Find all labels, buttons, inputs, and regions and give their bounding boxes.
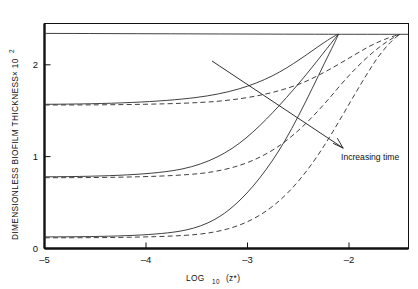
plot-frame xyxy=(45,24,409,249)
curve-4-solid xyxy=(45,34,339,237)
y-axis-title-exponent: 2 xyxy=(8,49,15,53)
curve-3-solid xyxy=(45,34,339,177)
curve-4-dashed xyxy=(45,34,401,238)
curve-1-solid xyxy=(45,33,409,34)
curve-2-dashed xyxy=(45,34,401,105)
y-tick-label-1: 1 xyxy=(33,151,38,162)
y-axis-title: DIMENSIONLESS BIOFILM THICKNESS × 10 2 xyxy=(8,49,20,240)
curve-2-solid xyxy=(45,34,339,104)
x-axis-title-main: LOG xyxy=(186,273,205,283)
x-tick-label-neg2: –2 xyxy=(344,254,355,265)
increasing-time-annotation: Increasing time xyxy=(212,61,399,162)
y-tick-label-2: 2 xyxy=(33,59,38,70)
y-axis-title-main: DIMENSIONLESS BIOFILM THICKNESS xyxy=(10,76,20,240)
x-axis-title-arg: (z*) xyxy=(226,273,240,283)
y-axis-title-multiplier: × 10 xyxy=(10,58,20,76)
curve-group xyxy=(45,33,409,237)
x-axis-title-sub: 10 xyxy=(212,278,220,285)
x-axis-title: LOG 10 (z*) xyxy=(186,273,240,285)
biofilm-thickness-chart: 0 1 2 –5 –4 –3 –2 LOG 10 (z*) DIMENSIONL… xyxy=(0,0,418,289)
chart-figure: 0 1 2 –5 –4 –3 –2 LOG 10 (z*) DIMENSIONL… xyxy=(0,0,418,289)
x-tick-label-neg3: –3 xyxy=(242,254,253,265)
x-tick-label-neg4: –4 xyxy=(141,254,152,265)
increasing-time-arrow-shaft xyxy=(212,61,343,148)
increasing-time-label: Increasing time xyxy=(341,152,399,162)
x-tick-label-neg5: –5 xyxy=(39,254,50,265)
y-tick-label-0: 0 xyxy=(33,243,38,254)
